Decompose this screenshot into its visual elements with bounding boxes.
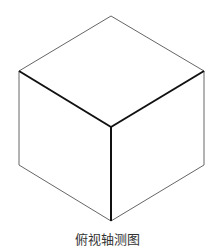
edge-top-right <box>111 16 204 71</box>
cube-front-edges <box>19 71 204 221</box>
edge-front-right <box>111 71 204 127</box>
diagram-caption: 俯视轴测图 <box>0 229 215 248</box>
edge-bottom-right <box>111 165 204 221</box>
edge-front-left <box>19 71 111 127</box>
edge-bottom-left <box>19 165 111 221</box>
edge-top-left <box>19 16 111 71</box>
